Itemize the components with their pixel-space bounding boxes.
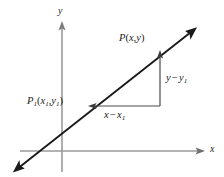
figure-canvas (0, 0, 224, 177)
point-p1-close-paren: ) (60, 95, 64, 106)
run-leg-term-x1-subscript: 1 (122, 114, 126, 122)
point-p-label: P(x,y) (119, 33, 144, 44)
point-p1-name-subscript: 1 (33, 100, 37, 108)
y-axis-label: y (58, 6, 62, 16)
secant-arrowhead-upper-icon (185, 27, 197, 39)
secant-arrowhead-lower-icon (13, 160, 25, 172)
point-p1-coord-x-subscript: 1 (45, 100, 49, 108)
rise-leg-term-y1-subscript: 1 (184, 77, 188, 85)
point-p-close-paren: ) (141, 32, 145, 43)
x-axis (20, 147, 205, 154)
geometry-figure: y x P(x,y) P1(x1,y1) y−y1 x−x1 (0, 0, 224, 177)
point-p1-coord-y-subscript: 1 (56, 100, 60, 108)
run-leg-minus-sign: − (109, 109, 117, 120)
rise-leg-label: y−y1 (166, 73, 187, 84)
rise-leg-term-y: y (166, 72, 171, 83)
run-leg-label: x−x1 (104, 110, 125, 121)
point-p1-label: P1(x1,y1) (27, 96, 63, 107)
rise-leg-minus-sign: − (171, 72, 179, 83)
run-leg-term-x: x (104, 109, 109, 120)
x-axis-label: x (210, 144, 214, 154)
